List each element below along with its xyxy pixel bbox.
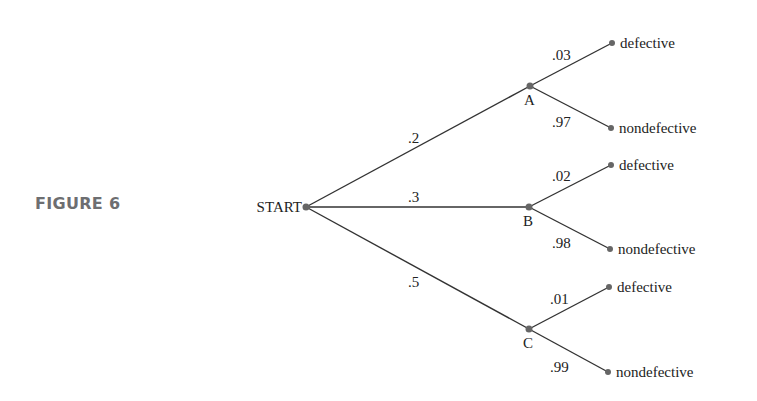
leaf-label-defective: defective — [619, 157, 674, 173]
leaf-probability-B-defective: .02 — [552, 168, 571, 184]
probability-tree: .2defective.03nondefective.97A.3defectiv… — [0, 0, 757, 401]
leaf-label-nondefective: nondefective — [616, 364, 694, 380]
leaf-node-dot — [606, 284, 612, 290]
branch-start-to-C — [306, 207, 529, 329]
leaf-probability-C-defective: .01 — [550, 291, 569, 307]
branch-probability-C: .5 — [408, 274, 419, 290]
node-label-A: A — [524, 92, 535, 108]
node-label-B: B — [523, 213, 533, 229]
leaf-node-dot — [607, 246, 613, 252]
branch-C-defective — [529, 287, 609, 329]
start-label: START — [257, 199, 302, 215]
leaf-node-dot — [605, 369, 611, 375]
node-dot-A — [527, 83, 534, 90]
leaf-probability-A-defective: .03 — [552, 47, 571, 63]
leaf-label-nondefective: nondefective — [619, 120, 697, 136]
leaf-node-dot — [608, 162, 614, 168]
branch-A-defective — [530, 43, 612, 86]
leaf-node-dot — [609, 40, 615, 46]
leaf-label-defective: defective — [620, 35, 675, 51]
leaf-label-nondefective: nondefective — [618, 241, 696, 257]
node-label-C: C — [523, 335, 533, 351]
node-dot-C — [526, 326, 533, 333]
leaf-probability-A-nondefective: .97 — [552, 114, 571, 130]
node-dot-B — [526, 204, 533, 211]
branch-probability-A: .2 — [408, 130, 419, 146]
leaf-node-dot — [608, 125, 614, 131]
start-node-dot — [303, 204, 310, 211]
branch-probability-B: .3 — [408, 189, 419, 205]
leaf-probability-B-nondefective: .98 — [552, 235, 571, 251]
leaf-label-defective: defective — [617, 279, 672, 295]
leaf-probability-C-nondefective: .99 — [550, 359, 569, 375]
